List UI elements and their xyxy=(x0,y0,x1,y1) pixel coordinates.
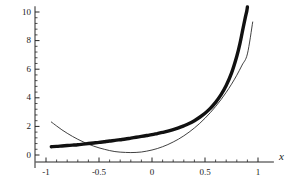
y-tick-label: 0 xyxy=(0,151,31,160)
x-tick-label: 1 xyxy=(238,168,278,177)
plot-figure: -1-0.500.510246810 x xyxy=(0,0,294,189)
y-tick-label: 6 xyxy=(0,65,31,74)
curve-thick-curve xyxy=(51,7,247,147)
x-tick-label: -1 xyxy=(26,168,66,177)
y-tick-label: 2 xyxy=(0,122,31,131)
plot-canvas xyxy=(0,0,294,189)
x-tick-label: -0.5 xyxy=(79,168,119,177)
y-tick-label: 4 xyxy=(0,93,31,102)
x-axis-label: x xyxy=(279,151,284,162)
y-tick-label: 8 xyxy=(0,36,31,45)
data-series xyxy=(51,7,252,153)
x-tick-label: 0 xyxy=(132,168,172,177)
x-tick-label: 0.5 xyxy=(185,168,225,177)
y-tick-label: 10 xyxy=(0,8,31,17)
